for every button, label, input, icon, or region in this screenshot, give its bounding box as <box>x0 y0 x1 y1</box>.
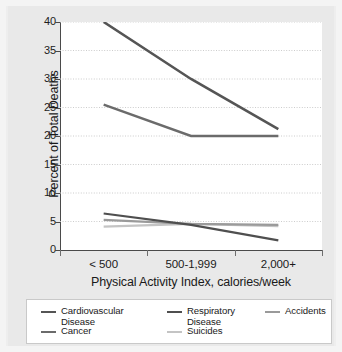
legend-item[interactable]: Suicides <box>167 326 222 337</box>
y-tick-mark <box>55 108 60 109</box>
y-tick-mark <box>55 165 60 166</box>
y-tick-label: 25 <box>22 102 56 113</box>
y-tick-label: 15 <box>22 159 56 170</box>
y-tick-mark <box>55 222 60 223</box>
x-tick-label: 2,000+ <box>235 258 322 270</box>
legend-label: Suicides <box>187 326 222 337</box>
y-tick-label: 40 <box>22 16 56 27</box>
legend-swatch-icon <box>41 331 56 333</box>
legend-swatch-icon <box>167 331 182 333</box>
x-axis-line <box>60 250 322 251</box>
plot-region: Percent of Total Deaths Physical Activit… <box>60 22 322 250</box>
legend-swatch-icon <box>41 311 56 313</box>
legend-item[interactable]: Cardiovascular Disease <box>41 306 124 327</box>
legend-label: Cancer <box>61 326 91 337</box>
x-tick-mark <box>322 250 323 256</box>
y-tick-label: 5 <box>22 216 56 227</box>
legend-item[interactable]: Cancer <box>41 326 91 337</box>
series-line <box>104 105 279 136</box>
legend-label: Cardiovascular Disease <box>61 306 124 327</box>
figure-root: Percent of Total Deaths Physical Activit… <box>0 0 342 352</box>
y-tick-label: 20 <box>22 130 56 141</box>
x-tick-mark <box>60 250 61 256</box>
chart-legend: Cardiovascular DiseaseRespiratory Diseas… <box>26 299 332 344</box>
y-tick-mark <box>55 79 60 80</box>
y-tick-label: 0 <box>22 244 56 255</box>
y-tick-mark <box>55 51 60 52</box>
y-tick-mark <box>55 193 60 194</box>
legend-label: Respiratory Disease <box>187 306 235 327</box>
y-tick-label: 30 <box>22 73 56 84</box>
series-line <box>104 214 279 241</box>
chart-panel: Percent of Total Deaths Physical Activit… <box>8 6 334 346</box>
y-tick-label: 35 <box>22 45 56 56</box>
x-tick-mark <box>235 250 236 256</box>
legend-label: Accidents <box>285 306 326 317</box>
y-tick-label: 10 <box>22 187 56 198</box>
legend-item[interactable]: Accidents <box>265 306 326 317</box>
legend-item[interactable]: Respiratory Disease <box>167 306 235 327</box>
x-tick-label: 500-1,999 <box>147 258 234 270</box>
y-tick-mark <box>55 22 60 23</box>
x-tick-mark <box>147 250 148 256</box>
y-tick-mark <box>55 136 60 137</box>
chart-lines <box>60 22 322 250</box>
x-axis-title: Physical Activity Index, calories/week <box>60 275 322 289</box>
legend-swatch-icon <box>167 311 182 313</box>
legend-swatch-icon <box>265 311 280 313</box>
x-tick-label: < 500 <box>60 258 147 270</box>
